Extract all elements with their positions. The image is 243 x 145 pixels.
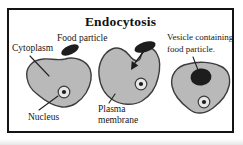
plasma-membrane-label: Plasma membrane bbox=[98, 104, 138, 126]
plasma-membrane-label-line1: Plasma bbox=[98, 104, 138, 115]
scan-shadow bbox=[0, 139, 243, 145]
cell-3-nucleolus bbox=[202, 100, 206, 104]
cytoplasm-label: Cytoplasm bbox=[12, 43, 53, 54]
food-particle-shape bbox=[59, 42, 80, 58]
vesicle-label-line2: food particle. bbox=[167, 44, 233, 56]
cell-2-nucleolus bbox=[139, 82, 143, 86]
endocytosis-diagram: Endocytosis Cytoplasm Food particle Nucl… bbox=[0, 0, 243, 145]
vesicle-label-line1: Vesicle containing bbox=[167, 32, 233, 44]
cell-2-shape bbox=[99, 48, 160, 104]
vesicle-label: Vesicle containing food particle. bbox=[167, 32, 233, 55]
food-particle-label: Food particle bbox=[57, 33, 107, 44]
plasma-membrane-label-line2: membrane bbox=[98, 115, 138, 126]
diagram-title: Endocytosis bbox=[7, 14, 234, 30]
cell-1-nucleolus bbox=[62, 90, 66, 94]
nucleus-label: Nucleus bbox=[28, 112, 59, 123]
cell-1-shape bbox=[27, 58, 92, 107]
